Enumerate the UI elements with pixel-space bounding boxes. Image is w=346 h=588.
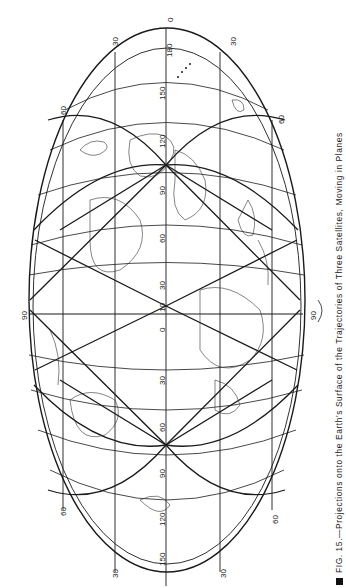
label-meridian: 150: [158, 552, 167, 566]
label-meridian: 60: [158, 423, 167, 432]
island-dots: [177, 63, 191, 78]
label-top-center-outer: 0: [166, 17, 175, 22]
label-meridian: 90: [158, 186, 167, 195]
label-bottom-left: 30: [111, 569, 120, 578]
label-bottom-right: 30: [219, 569, 228, 578]
label-meridian: 10: [158, 303, 167, 312]
label-meridian: 60: [158, 234, 167, 243]
figure-caption: FIG. 15.—Projections onto the Earth's Su…: [334, 132, 344, 585]
label-upper-left-60: 60: [59, 106, 68, 115]
label-lower-left-60: 60: [59, 507, 68, 516]
satellite-trajectory-map: 0 180 30 30 60 60 90 90 60 60 30 30 150 …: [0, 0, 346, 588]
label-meridian: 90: [158, 469, 167, 478]
caption-area: FIG. 15.—Projections onto the Earth's Su…: [322, 0, 346, 588]
label-top-center-inner: 180: [165, 43, 174, 57]
label-meridian: 120: [158, 512, 167, 526]
label-meridian: 120: [158, 134, 167, 148]
label-top-right: 30: [229, 37, 238, 46]
label-top-left: 30: [111, 37, 120, 46]
bullet-square-icon: [336, 578, 343, 585]
label-meridian: 150: [158, 86, 167, 100]
label-meridian: 30: [158, 281, 167, 290]
label-upper-right-60: 60: [277, 115, 286, 124]
label-left-equator: 90: [20, 311, 29, 320]
caption-number: FIG. 15.: [334, 538, 344, 573]
label-right-equator: 90: [309, 311, 318, 320]
caption-text: —Projections onto the Earth's Surface of…: [334, 132, 344, 538]
label-meridian: 0: [158, 327, 167, 332]
map-outline: [29, 28, 305, 572]
label-meridian: 30: [158, 376, 167, 385]
label-lower-right-60: 60: [271, 515, 280, 524]
